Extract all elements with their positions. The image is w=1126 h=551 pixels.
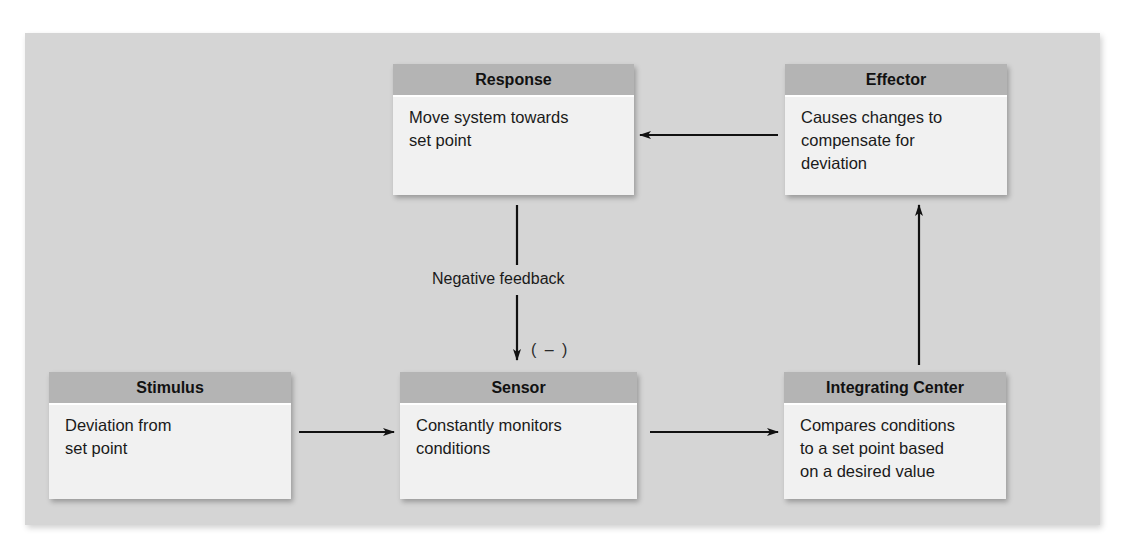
negative-feedback-label: Negative feedback [429, 270, 568, 288]
negative-sign-label: ( – ) [531, 341, 569, 359]
